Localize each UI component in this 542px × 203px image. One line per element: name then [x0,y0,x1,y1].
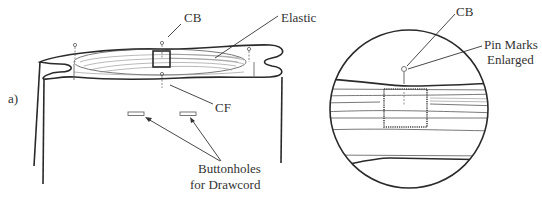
pin-head [402,67,407,72]
stitched-box [384,89,427,127]
buttonhole-right [180,112,196,116]
enlarged-detail-view: CB Pin Marks Enlarged [320,4,538,188]
waistband-top-edge [320,79,500,86]
diagram-canvas: CB Elastic CF Buttonholes for Drawcord a… [0,0,542,203]
label-enlarged: Enlarged [487,52,534,67]
panel-label-a: a) [8,91,18,106]
pin-marks-leader-line [408,46,482,69]
skirt-left-inner-edge [43,79,44,184]
elastic-ring-outer [74,49,246,75]
skirt-waistband-view: CB Elastic CF Buttonholes for Drawcord a… [8,10,317,192]
label-cf: CF [215,100,231,115]
label-for-drawcord: for Drawcord [190,177,261,192]
magnifier-circle [330,30,488,188]
label-pin-marks: Pin Marks [484,37,538,52]
label-buttonholes: Buttonholes [198,161,261,176]
label-cb: CB [184,10,202,25]
skirt-left-outer-edge [34,62,40,166]
buttonhole-left [128,112,144,116]
detail-label-cb: CB [456,4,474,19]
label-elastic: Elastic [281,10,317,25]
skirt-right-edge [281,77,282,163]
waistband-bottom-edge [340,158,500,166]
cb-leader-line [168,24,181,37]
cf-leader-line [170,85,213,104]
elastic-leader-line [215,16,278,58]
pin-marker-right [247,47,250,62]
garment-diagram: CB Elastic CF Buttonholes for Drawcord a… [0,0,542,203]
buttonhole-arrows [145,117,221,161]
